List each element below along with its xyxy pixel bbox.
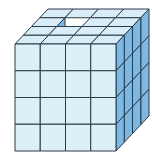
front-cube-face xyxy=(66,98,91,125)
front-cube-face xyxy=(40,44,65,71)
front-cube-face xyxy=(40,124,65,151)
front-cube-face xyxy=(91,44,116,71)
front-cube-face xyxy=(91,124,116,151)
cube-stack-figure xyxy=(0,0,152,157)
cube-diagram xyxy=(0,0,152,157)
front-cube-face xyxy=(91,71,116,98)
front-cube-face xyxy=(15,124,40,151)
front-cube-face xyxy=(66,44,91,71)
front-cube-face xyxy=(15,98,40,125)
front-cube-face xyxy=(66,71,91,98)
front-cube-face xyxy=(91,98,116,125)
front-cube-face xyxy=(66,124,91,151)
front-cube-face xyxy=(15,44,40,71)
front-cube-face xyxy=(15,71,40,98)
front-cube-face xyxy=(40,71,65,98)
front-cube-face xyxy=(40,98,65,125)
